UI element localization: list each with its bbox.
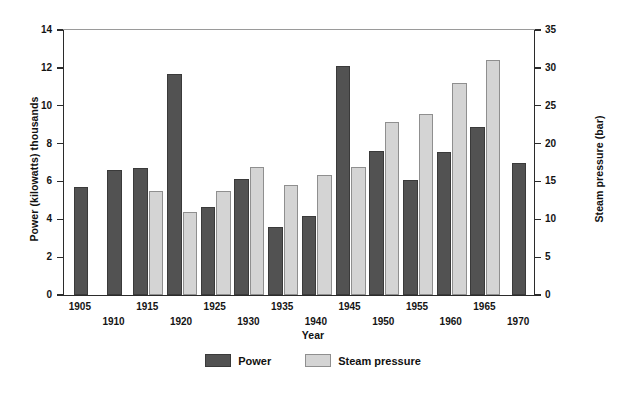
bar-steam-pressure-1945 — [351, 167, 366, 295]
legend-label-steam-pressure: Steam pressure — [338, 355, 421, 367]
bar-steam-pressure-1940 — [317, 175, 332, 295]
legend-swatch-steam-pressure-icon — [305, 354, 331, 367]
bar-steam-pressure-1965 — [486, 60, 501, 295]
legend-label-power: Power — [238, 355, 271, 367]
y-axis-left-tick-label: 6 — [26, 175, 52, 186]
x-axis-title: Year — [0, 329, 626, 341]
x-axis-tick-label-1915: 1915 — [124, 301, 170, 312]
y-axis-right-tick — [535, 257, 541, 258]
y-axis-right-tick-label: 5 — [545, 251, 571, 262]
bar-steam-pressure-1915 — [149, 191, 164, 295]
bar-chart-figure: Power (kilowatts) thousands Steam pressu… — [0, 0, 626, 395]
y-axis-left-tick-label: 8 — [26, 138, 52, 149]
bar-power-1940 — [302, 216, 317, 296]
x-axis-tick-label-1955: 1955 — [394, 301, 440, 312]
bar-power-1930 — [234, 179, 249, 295]
bar-power-1915 — [133, 168, 148, 295]
x-axis-tick-label-1925: 1925 — [192, 301, 238, 312]
bar-power-1965 — [470, 127, 485, 295]
x-axis-tick-label-1905: 1905 — [57, 301, 103, 312]
y-axis-right-tick-label: 30 — [545, 62, 571, 73]
y-axis-left-tick-label: 12 — [26, 62, 52, 73]
legend-entry-power[interactable]: Power — [205, 354, 271, 367]
y-axis-right-tick — [535, 29, 541, 30]
y-axis-right-tick — [535, 143, 541, 144]
legend-swatch-power-icon — [205, 354, 231, 367]
y-axis-right-tick-label: 20 — [545, 138, 571, 149]
x-axis-tick-label-1940: 1940 — [293, 316, 339, 327]
y-axis-right-tick-label: 10 — [545, 213, 571, 224]
y-axis-right-tick — [535, 294, 541, 295]
bar-power-1925 — [201, 207, 216, 295]
y-axis-left-title: Power (kilowatts) thousands — [28, 59, 40, 279]
bar-power-1910 — [107, 170, 122, 295]
bar-power-1935 — [268, 227, 283, 295]
x-axis-tick-label-1910: 1910 — [91, 316, 137, 327]
bar-power-1960 — [437, 152, 452, 295]
bar-power-1955 — [403, 180, 418, 295]
bar-power-1945 — [336, 66, 351, 295]
y-axis-left-tick-label: 2 — [26, 251, 52, 262]
plot-area — [63, 30, 535, 295]
x-axis-tick-label-1965: 1965 — [461, 301, 507, 312]
bar-steam-pressure-1925 — [216, 191, 231, 295]
x-axis-tick-label-1960: 1960 — [428, 316, 474, 327]
y-axis-right-tick — [535, 219, 541, 220]
bar-power-1920 — [167, 74, 182, 295]
x-axis-tick-label-1935: 1935 — [259, 301, 305, 312]
y-axis-right-tick-label: 0 — [545, 289, 571, 300]
y-axis-left-tick-label: 0 — [26, 289, 52, 300]
bar-power-1950 — [369, 151, 384, 295]
y-axis-left-tick-label: 14 — [26, 24, 52, 35]
bar-power-1905 — [74, 187, 89, 295]
bar-steam-pressure-1960 — [452, 83, 467, 295]
bar-steam-pressure-1955 — [419, 114, 434, 295]
y-axis-right-tick-label: 25 — [545, 100, 571, 111]
y-axis-right-tick — [535, 105, 541, 106]
y-axis-left-tick-label: 10 — [26, 100, 52, 111]
y-axis-right-tick-label: 15 — [545, 175, 571, 186]
bar-power-1970 — [512, 163, 527, 296]
x-axis-tick-label-1970: 1970 — [495, 316, 541, 327]
legend-entry-steam-pressure[interactable]: Steam pressure — [305, 354, 421, 367]
y-axis-left-tick-label: 4 — [26, 213, 52, 224]
x-axis-tick-label-1920: 1920 — [158, 316, 204, 327]
chart-legend: Power Steam pressure — [0, 354, 626, 367]
y-axis-right-tick — [535, 67, 541, 68]
x-axis-tick-label-1945: 1945 — [327, 301, 373, 312]
bar-steam-pressure-1920 — [183, 212, 198, 295]
bar-steam-pressure-1930 — [250, 167, 265, 295]
y-axis-right-tick — [535, 181, 541, 182]
x-axis-tick-label-1950: 1950 — [360, 316, 406, 327]
bar-steam-pressure-1935 — [284, 185, 299, 295]
y-axis-right-tick-label: 35 — [545, 24, 571, 35]
bar-steam-pressure-1950 — [385, 122, 400, 295]
x-axis-tick-label-1930: 1930 — [225, 316, 271, 327]
y-axis-right-title: Steam pressure (bar) — [593, 59, 605, 279]
